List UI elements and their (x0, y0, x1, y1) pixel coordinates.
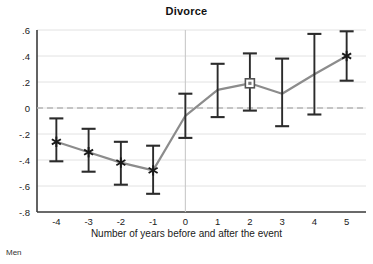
series-line-estimate (56, 56, 346, 170)
y-tick-label: -.8 (19, 207, 30, 218)
x-tick-label: 4 (312, 216, 317, 227)
x-tick-label: -3 (84, 216, 92, 227)
footer-note: Men (6, 248, 22, 257)
y-tick-label: .2 (22, 77, 30, 88)
x-tick-label: 0 (183, 216, 188, 227)
y-axis-tick-labels: .6.4.20-.2-.4-.6-.8 (19, 25, 30, 218)
data-series (56, 56, 346, 170)
y-tick-label: .4 (22, 51, 30, 62)
y-tick-label: -.6 (19, 181, 30, 192)
x-tick-label: 1 (215, 216, 220, 227)
error-bar (211, 64, 225, 117)
error-bar (307, 34, 321, 115)
x-axis-tick-labels: -4-3-2-1012345 (52, 216, 349, 227)
y-tick-label: -.4 (19, 155, 30, 166)
x-tick-label: 2 (247, 216, 252, 227)
error-bar (178, 94, 192, 138)
x-tick-label: -4 (52, 216, 60, 227)
reference-lines (37, 30, 366, 212)
data-point-markers (52, 51, 351, 176)
y-tick-label: 0 (25, 103, 30, 114)
y-tick-label: .6 (22, 25, 30, 36)
x-axis-title: Number of years before and after the eve… (0, 228, 373, 239)
axis-frame (37, 30, 366, 212)
grid-lines (37, 30, 366, 212)
x-tick-label: 5 (344, 216, 349, 227)
x-tick-label: -2 (117, 216, 125, 227)
x-tick-label: -1 (149, 216, 157, 227)
x-tick-label: 3 (279, 216, 284, 227)
chart-figure: Divorce .6.4.20-.2-.4-.6-.8 -4-3-2-10123… (0, 0, 373, 264)
y-tick-label: -.2 (19, 129, 30, 140)
chart-plot-area: .6.4.20-.2-.4-.6-.8 -4-3-2-1012345 (0, 0, 373, 264)
data-point-marker-square-center (248, 82, 251, 85)
